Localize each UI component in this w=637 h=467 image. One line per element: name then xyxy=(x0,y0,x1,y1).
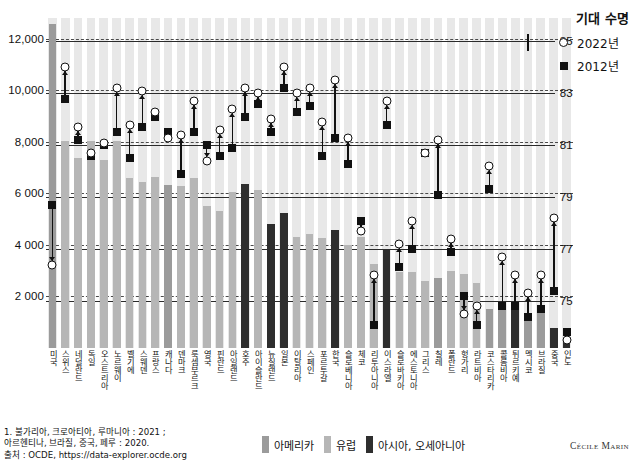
americas-swatch-icon xyxy=(262,436,269,453)
legend-region-europe: 유럽 xyxy=(324,436,356,453)
x-tick-label: 프랑스 xyxy=(151,350,159,374)
bar xyxy=(216,211,224,348)
marker-2012 xyxy=(408,245,416,253)
marker-2022 xyxy=(138,86,147,95)
marker-2012 xyxy=(318,152,326,160)
marker-2012 xyxy=(331,134,339,142)
marker-2022 xyxy=(305,84,314,93)
marker-2022 xyxy=(549,214,558,223)
x-tick-label: 독일 xyxy=(87,350,95,366)
y-tick-left: 8,000 xyxy=(0,136,44,148)
marker-2022 xyxy=(99,138,108,147)
arrowhead-icon xyxy=(268,123,274,127)
x-tick-label: 핀란드 xyxy=(215,350,223,374)
legend-item-2022: 2022년 xyxy=(517,34,629,51)
marker-2022 xyxy=(86,149,95,158)
y-tick-right: 79 xyxy=(560,191,573,203)
y-tick-right: 83 xyxy=(560,87,573,99)
marker-2022 xyxy=(498,253,507,262)
gridline-left xyxy=(46,142,573,143)
x-tick-label: 체코 xyxy=(357,350,365,366)
x-tick-label: 에스토니아 xyxy=(408,350,416,390)
marker-2022 xyxy=(459,310,468,319)
bar xyxy=(383,250,391,348)
arrowhead-icon xyxy=(486,170,492,174)
marker-2022 xyxy=(266,115,275,124)
bar xyxy=(254,190,262,348)
change-connector xyxy=(437,143,439,194)
legend-title: 기대 수명 xyxy=(517,8,629,27)
y-tick-right: 75 xyxy=(560,295,573,307)
marker-2012 xyxy=(511,302,519,310)
marker-2012 xyxy=(485,185,493,193)
x-tick-label: 일본 xyxy=(280,350,288,366)
bar xyxy=(139,182,147,348)
marker-2012 xyxy=(280,84,288,92)
bar xyxy=(486,309,494,348)
legend-label-2022: 2022년 xyxy=(577,34,629,51)
bar xyxy=(61,141,69,349)
marker-2012 xyxy=(228,144,236,152)
x-tick-label: 라트비아 xyxy=(472,350,480,382)
legend-region-americas-label: 아메리카 xyxy=(274,437,314,453)
x-tick-label: 헝가리 xyxy=(460,350,468,374)
y-tick-right: 81 xyxy=(560,139,573,151)
legend-regions: 아메리카 유럽 아시아, 오세아니아 xyxy=(262,436,465,453)
bar xyxy=(49,24,57,348)
marker-2022 xyxy=(176,130,185,139)
arrowhead-icon xyxy=(319,126,325,130)
marker-2012 xyxy=(48,201,56,209)
gridline-right xyxy=(46,41,555,42)
x-tick-label: 인도 xyxy=(562,350,570,366)
marker-2022 xyxy=(344,133,353,142)
marker-2022 xyxy=(202,156,211,165)
marker-2022 xyxy=(331,76,340,85)
marker-2022 xyxy=(446,234,455,243)
arrowhead-icon xyxy=(281,71,287,75)
bar xyxy=(524,318,532,348)
x-tick-label: 아이슬란드 xyxy=(254,350,262,390)
x-tick-label: 스위스 xyxy=(61,350,69,374)
bar xyxy=(203,206,211,348)
arrowhead-icon xyxy=(332,84,338,88)
x-tick-label: 그리스 xyxy=(421,350,429,374)
plot-area xyxy=(46,18,573,348)
x-tick-label: 덴마크 xyxy=(177,350,185,374)
marker-2012 xyxy=(293,108,301,116)
marker-2022 xyxy=(421,149,430,158)
arrowhead-icon xyxy=(538,279,544,283)
bar xyxy=(241,184,249,348)
bar xyxy=(511,309,519,348)
x-tick-label: 코스타리카 xyxy=(485,350,493,390)
europe-swatch-icon xyxy=(324,436,331,453)
bar xyxy=(318,238,326,348)
x-tick-label: 튀르키예 xyxy=(511,350,519,382)
legend-label-2012: 2012년 xyxy=(577,57,629,74)
bar xyxy=(550,328,558,348)
marker-2012 xyxy=(190,128,198,136)
arrowhead-icon xyxy=(62,71,68,75)
marker-2022 xyxy=(511,271,520,280)
marker-2012 xyxy=(524,313,532,321)
marker-2022 xyxy=(215,125,224,134)
marker-2012 xyxy=(306,102,314,110)
x-tick-label: 슬로바키아 xyxy=(395,350,403,390)
bar xyxy=(396,272,404,348)
arrowhead-icon xyxy=(307,92,313,96)
marker-2022 xyxy=(189,97,198,106)
marker-2012 xyxy=(473,321,481,329)
arrowhead-icon xyxy=(409,225,415,229)
bar xyxy=(293,237,301,348)
marker-2022 xyxy=(408,216,417,225)
x-tick-label: 노르웨이 xyxy=(112,350,120,382)
y-tick-left: 10,000 xyxy=(0,84,44,96)
marker-2022 xyxy=(48,260,57,269)
marker-2012 xyxy=(344,160,352,168)
marker-2022 xyxy=(164,133,173,142)
bar xyxy=(151,177,159,348)
marker-2012 xyxy=(138,123,146,131)
legend-region-asia: 아시아, 오세아니아 xyxy=(366,436,465,453)
marker-2022 xyxy=(279,63,288,72)
marker-2012 xyxy=(74,136,82,144)
bar xyxy=(331,230,339,348)
